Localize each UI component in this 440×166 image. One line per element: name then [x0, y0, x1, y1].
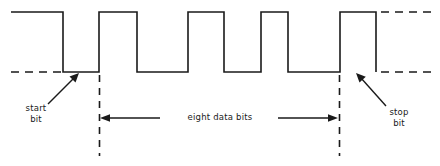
stop-bit-label-line1: stop [379, 107, 419, 118]
data-bits-label: eight data bits [160, 112, 280, 123]
data-span-right-arrow [278, 114, 338, 122]
start-bit-label-line1: start [14, 103, 58, 114]
start-bit-label: start bit [14, 103, 58, 125]
stop-bit-label-line2: bit [379, 118, 419, 129]
digital-waveform-trace [11, 12, 376, 72]
start-bit-callout-arrow [48, 73, 79, 104]
waveform-canvas [0, 0, 440, 166]
stop-bit-label: stop bit [379, 107, 419, 129]
stop-bit-callout-arrow [356, 73, 386, 106]
data-span-left-arrow [100, 114, 160, 122]
serial-frame-diagram: start bit stop bit eight data bits [0, 0, 440, 166]
start-bit-label-line2: bit [14, 114, 58, 125]
